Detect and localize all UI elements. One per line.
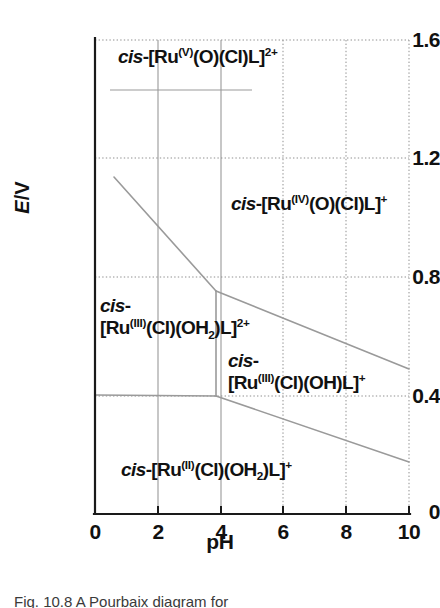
region-label-ru2-tail2: )L] [263,459,285,480]
x-axis-ticks [158,506,409,514]
region-label-ru2-charge: + [285,458,292,471]
region-label-ru3-hydroxo-tail: (Cl)(OH)L] [274,373,359,394]
region-label-ru3-aqua-tail: (Cl)(OH [146,318,208,339]
region-label-ru5: cis-[Ru(V)(O)(Cl)L]2+ [118,45,277,68]
region-label-ru5-cis: cis [118,46,143,67]
region-label-ru4-charge: + [381,192,388,205]
region-label-ru2-sub: 2 [257,469,263,482]
region-label-ru3-aqua: cis- [Ru(III)(Cl)(OH2)L]2+ [100,295,250,339]
region-label-ru3-hydroxo-open: [Ru [228,373,258,394]
region-label-ru3-aqua-open: [Ru [100,318,130,339]
pourbaix-diagram-figure: 1.6 1.2 0.8 0.4 0 0 2 4 6 8 10 E/V pH ci… [0,0,440,608]
boundary-ru3hydroxo-ru2 [216,396,409,462]
region-label-ru2-body: -[Ru [146,459,182,480]
region-label-ru3-aqua-ox: (III) [130,316,146,329]
region-label-ru4-ox: (IV) [291,192,309,205]
region-label-ru3-hydroxo-dash: - [253,350,259,371]
region-label-ru3-hydroxo-line1: cis- [228,350,365,371]
region-label-ru2-cis: cis [121,459,146,480]
y-axis-label-symbol: E [11,200,33,213]
region-label-ru2: cis-[Ru(II)(Cl)(OH2)L]+ [121,458,292,481]
region-label-ru4-cis: cis [231,193,256,214]
region-label-ru3-hydroxo-ox: (III) [258,371,274,384]
region-label-ru3-aqua-sub: 2 [208,328,214,341]
region-label-ru3-hydroxo: cis- [Ru(III)(Cl)(OH)L]+ [228,350,365,394]
figure-caption: Fig. 10.8 A Pourbaix diagram for [14,592,314,608]
region-label-ru3-aqua-tail2: )L] [214,318,236,339]
region-label-ru4-body: -[Ru [256,193,292,214]
y-tick-4: 0.4 [382,384,440,408]
x-axis-label: pH [0,530,440,554]
region-label-ru2-ox: (II) [181,458,194,471]
region-label-ru2-tail: (Cl)(OH [194,459,256,480]
y-axis-label: E/V [11,178,34,218]
region-label-ru5-body: -[Ru [143,46,179,67]
region-label-ru3-hydroxo-charge: + [359,371,366,384]
region-label-ru3-aqua-line2: [Ru(III)(Cl)(OH2)L]2+ [100,316,250,339]
region-label-ru3-hydroxo-line2: [Ru(III)(Cl)(OH)L]+ [228,371,365,394]
y-axis-label-unit: /V [11,181,33,200]
region-label-ru3-aqua-charge: 2+ [237,316,250,329]
region-label-ru5-ox: (V) [178,45,193,58]
boundary-ru3aqua-ru2 [95,395,216,396]
region-label-ru5-tail: (O)(Cl)L] [193,46,265,67]
y-tick-2: 1.2 [382,146,440,170]
region-label-ru4: cis-[Ru(IV)(O)(Cl)L]+ [231,192,387,215]
region-label-ru5-charge: 2+ [265,45,278,58]
grid-horizontal [95,40,409,396]
region-label-ru3-hydroxo-cis: cis [228,350,253,371]
region-label-ru3-aqua-dash: - [125,295,131,316]
region-label-ru4-tail: (O)(Cl)L] [309,193,381,214]
axis-frame [94,38,410,514]
region-label-ru3-aqua-line1: cis- [100,295,250,316]
y-tick-1: 1.6 [382,28,440,52]
region-label-ru3-aqua-cis: cis [100,295,125,316]
boundary-ru5-ru4 [114,177,216,291]
y-tick-3: 0.8 [382,265,440,289]
